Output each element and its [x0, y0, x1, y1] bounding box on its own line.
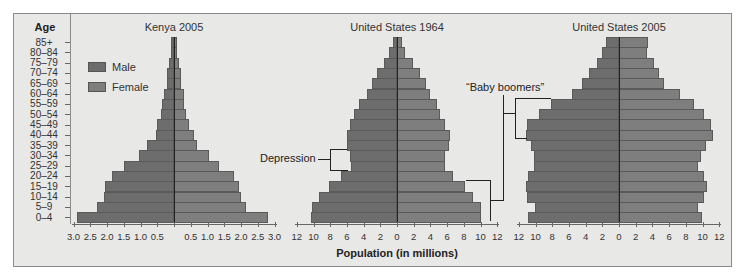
x-tick: [380, 222, 381, 227]
x-tick: [636, 222, 637, 227]
x-tick: [481, 222, 482, 227]
x-tick-label: 12: [492, 231, 503, 242]
x-tick-label: 3.0: [67, 231, 80, 242]
depression-leader: [318, 159, 330, 160]
bar-female: [619, 212, 702, 223]
boomers-2005-bracket-top: [515, 98, 551, 99]
x-tick-label: 2: [633, 231, 638, 242]
age-tick: [65, 207, 70, 208]
x-tick: [703, 222, 704, 227]
x-tick: [174, 222, 175, 227]
x-tick: [586, 222, 587, 227]
x-tick-label: 2.5: [251, 231, 264, 242]
bar-male: [528, 212, 619, 223]
age-label: 70–74: [22, 68, 66, 78]
boomers-stem: [503, 95, 504, 200]
x-tick-label: 6: [344, 231, 349, 242]
x-tick: [107, 222, 108, 227]
age-tick: [65, 166, 70, 167]
x-tick-label: 0: [394, 231, 399, 242]
x-tick: [397, 222, 398, 227]
x-tick-label: 0: [616, 231, 621, 242]
x-tick-label: 2: [378, 231, 383, 242]
legend-item-male: Male: [88, 57, 149, 77]
pyramid-title: United States 2005: [572, 21, 666, 33]
legend-item-female: Female: [88, 77, 149, 97]
age-tick: [65, 42, 70, 43]
x-tick-label: 12: [514, 231, 525, 242]
legend: Male Female: [88, 57, 149, 97]
age-tick: [65, 52, 70, 53]
x-tick: [686, 222, 687, 227]
center-line: [174, 37, 175, 224]
x-tick: [191, 222, 192, 227]
center-line: [619, 37, 620, 224]
boomers-1964-bracket-v: [490, 180, 491, 221]
age-label: 55–59: [22, 99, 66, 109]
x-tick: [124, 222, 125, 227]
boomers-right-link: [503, 113, 515, 114]
x-tick-label: 3.0: [268, 231, 281, 242]
age-tick: [65, 176, 70, 177]
x-tick-label: 0.5: [151, 231, 164, 242]
x-tick: [90, 222, 91, 227]
x-tick-label: 2.0: [234, 231, 247, 242]
x-tick-label: 12: [292, 231, 303, 242]
age-tick: [65, 63, 70, 64]
male-swatch: [88, 62, 106, 72]
x-tick-label: 4: [583, 231, 588, 242]
age-tick: [65, 73, 70, 74]
x-tick-label: 2: [411, 231, 416, 242]
x-tick-label: 12: [714, 231, 725, 242]
depression-bracket-top: [330, 149, 347, 150]
x-tick: [275, 222, 276, 227]
depression-bracket-v: [330, 149, 331, 170]
x-tick-label: 4: [650, 231, 655, 242]
boomers-1964-bracket-top: [466, 180, 491, 181]
x-tick: [519, 222, 520, 227]
x-tick-label: 6: [566, 231, 571, 242]
boomers-2005-bracket-bottom: [515, 138, 527, 139]
x-tick-label: 10: [475, 231, 486, 242]
x-tick: [669, 222, 670, 227]
x-tick-label: 8: [550, 231, 555, 242]
x-tick-label: 6: [666, 231, 671, 242]
x-tick: [314, 222, 315, 227]
x-tick: [208, 222, 209, 227]
x-tick-label: 8: [328, 231, 333, 242]
age-tick: [65, 135, 70, 136]
x-tick: [241, 222, 242, 227]
x-tick: [569, 222, 570, 227]
x-tick-label: 1.0: [134, 231, 147, 242]
age-label: 20–24: [22, 171, 66, 181]
x-tick: [258, 222, 259, 227]
bar-male: [311, 212, 397, 223]
x-tick-label: 0.5: [184, 231, 197, 242]
annotation-depression: Depression: [260, 152, 316, 164]
age-tick: [65, 83, 70, 84]
x-tick: [536, 222, 537, 227]
age-tick: [65, 94, 70, 95]
age-tick: [65, 145, 70, 146]
x-tick-label: 6: [444, 231, 449, 242]
x-axis-title: Population (in millions): [336, 247, 458, 259]
age-label: 5–9: [22, 202, 66, 212]
legend-label-female: Female: [112, 81, 149, 93]
pyramid-title: United States 1964: [350, 21, 444, 33]
age-tick: [65, 125, 70, 126]
age-tick: [65, 186, 70, 187]
x-tick-label: 10: [697, 231, 708, 242]
x-tick-label: 1.5: [218, 231, 231, 242]
x-tick: [330, 222, 331, 227]
boomers-left-link: [490, 200, 504, 201]
age-tick: [65, 104, 70, 105]
x-tick-label: 8: [461, 231, 466, 242]
legend-label-male: Male: [112, 61, 136, 73]
x-tick: [141, 222, 142, 227]
age-axis-separator: [70, 13, 71, 224]
x-tick-label: 4: [428, 231, 433, 242]
age-label: 40–44: [22, 130, 66, 140]
bar-female: [397, 212, 481, 223]
x-tick-label: 2.0: [100, 231, 113, 242]
x-tick-label: 1.0: [201, 231, 214, 242]
